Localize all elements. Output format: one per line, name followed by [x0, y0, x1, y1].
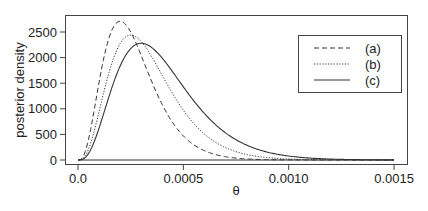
- legend-label: (a): [365, 41, 381, 56]
- legend-label: (b): [365, 57, 381, 72]
- x-axis-title: θ: [232, 183, 239, 198]
- y-tick-label: 1000: [28, 101, 57, 116]
- legend-label: (c): [365, 73, 380, 88]
- y-tick-label: 1500: [28, 76, 57, 91]
- y-tick-label: 2000: [28, 50, 57, 65]
- y-tick-label: 500: [35, 127, 57, 142]
- x-tick-label: 0.0015: [374, 171, 414, 186]
- x-tick-label: 0.0005: [163, 171, 203, 186]
- y-axis: 05001000150020002500: [28, 25, 65, 168]
- x-tick-label: 0.0: [69, 171, 87, 186]
- x-axis: 0.00.00050.00100.0015: [69, 165, 414, 187]
- y-tick-label: 2500: [28, 25, 57, 40]
- x-tick-label: 0.0010: [269, 171, 309, 186]
- posterior-density-chart: 05001000150020002500 0.00.00050.00100.00…: [0, 0, 428, 211]
- legend: (a)(b)(c): [299, 36, 402, 93]
- y-tick-label: 0: [50, 153, 57, 168]
- y-axis-title: posterior density: [12, 42, 27, 138]
